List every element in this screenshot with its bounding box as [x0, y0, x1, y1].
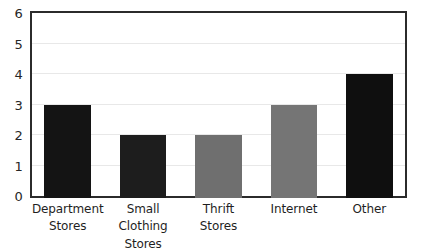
bar	[44, 105, 91, 199]
x-tick-label-line1: Small Clothing	[119, 202, 168, 233]
x-axis: DepartmentStoresSmall ClothingStoresThri…	[30, 201, 407, 244]
bar-slot	[346, 11, 393, 198]
y-axis: 0123456	[0, 11, 27, 198]
x-tick-label: Other	[332, 201, 407, 218]
x-tick-label-line1: Department	[32, 202, 104, 216]
bars-layer	[30, 11, 407, 198]
y-tick-label-2: 2	[15, 129, 23, 142]
bar-slot	[271, 11, 318, 198]
bar	[195, 135, 242, 198]
y-tick-label-5: 5	[15, 37, 23, 50]
x-tick-label-line2: Stores	[30, 218, 105, 235]
x-tick-label-line1: Internet	[270, 202, 317, 216]
x-tick-label: Small ClothingStores	[105, 201, 180, 252]
x-tick-label: ThriftStores	[181, 201, 256, 236]
y-tick-label-3: 3	[15, 98, 23, 111]
x-tick-label-line2: Stores	[105, 236, 180, 252]
bar	[346, 74, 393, 198]
y-tick-label-6: 6	[15, 7, 23, 20]
bar	[271, 105, 318, 199]
x-tick-label-line1: Other	[353, 202, 387, 216]
bar-slot	[195, 11, 242, 198]
y-tick-label-0: 0	[15, 190, 23, 203]
bar-slot	[120, 11, 167, 198]
x-tick-label-line2: Stores	[181, 218, 256, 235]
bar-slot	[44, 11, 91, 198]
y-tick-label-4: 4	[15, 68, 23, 81]
bar	[120, 135, 167, 198]
x-tick-label: DepartmentStores	[30, 201, 105, 236]
x-tick-label: Internet	[256, 201, 331, 218]
y-tick-label-1: 1	[15, 159, 23, 172]
x-tick-label-line1: Thrift	[203, 202, 234, 216]
